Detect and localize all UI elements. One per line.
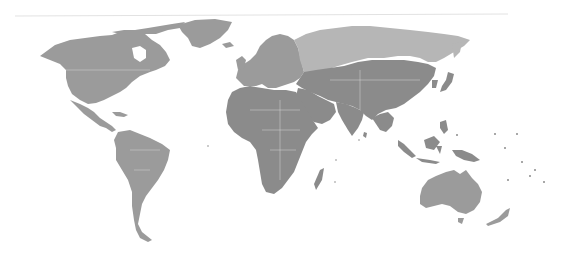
region-sri-lanka [363, 132, 367, 138]
map-frame-line [15, 14, 508, 16]
region-australia[interactable] [420, 170, 482, 214]
region-indonesia[interactable] [398, 136, 442, 164]
region-europe[interactable] [236, 34, 304, 88]
region-arctic-islands [112, 22, 185, 34]
region-korea [432, 80, 438, 88]
region-philippines [440, 120, 448, 134]
region-north-america[interactable] [40, 31, 170, 104]
region-new-zealand[interactable] [486, 208, 510, 226]
region-tasmania [458, 218, 464, 224]
world-map-svg [0, 0, 566, 256]
region-south-america[interactable] [114, 130, 170, 242]
region-new-guinea[interactable] [452, 150, 480, 162]
region-caribbean [112, 112, 128, 117]
world-map [0, 0, 566, 256]
region-japan[interactable] [440, 72, 454, 92]
region-russia-kamchatka [452, 42, 462, 58]
region-madagascar[interactable] [314, 168, 324, 190]
region-iceland [222, 42, 234, 48]
region-central-america[interactable] [70, 100, 116, 132]
